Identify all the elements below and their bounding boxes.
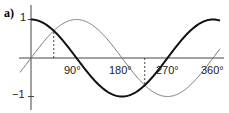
sinusoid-plot [0, 0, 229, 113]
x-tick-180: 180° [109, 64, 132, 76]
x-tick-90: 90° [64, 64, 81, 76]
y-tick-1: 1 [20, 11, 26, 23]
x-tick-270: 270° [156, 64, 179, 76]
x-tick-360: 360° [201, 64, 224, 76]
y-tick-minus-1: −1 [12, 88, 25, 100]
